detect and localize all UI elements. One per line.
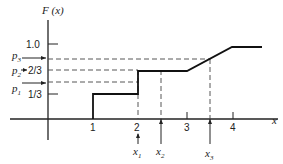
- svg-text:x1: x1: [132, 145, 141, 160]
- svg-text:p1: p1: [11, 82, 21, 97]
- ylabel-2-3: 2/3: [28, 65, 42, 76]
- y-axis-title: F (x): [41, 4, 64, 17]
- p3-annotation: p3: [11, 49, 46, 64]
- xlabel-3: 3: [184, 122, 190, 133]
- ylabel-1-3: 1/3: [28, 89, 42, 100]
- xlabel-1: 1: [90, 122, 96, 133]
- dashed-guides: [48, 59, 210, 119]
- svg-text:x3: x3: [204, 147, 214, 162]
- x1-annotation: x1: [132, 133, 141, 160]
- svg-text:x2: x2: [155, 145, 165, 160]
- x3-annotation: x3: [204, 119, 214, 162]
- svg-text:p2: p2: [11, 64, 22, 79]
- svg-text:p3: p3: [11, 49, 22, 64]
- cdf-chart: 1.0 2/3 1/3 F (x) x 1 2 3 4 p3 p2 p1 x1 …: [0, 0, 283, 164]
- p2-annotation: p2: [11, 64, 27, 79]
- x-axis-title: x: [271, 114, 277, 126]
- cdf-curve: [93, 47, 262, 119]
- ylabel-1-0: 1.0: [26, 39, 40, 50]
- xlabel-4: 4: [230, 122, 236, 133]
- xlabel-2: 2: [134, 122, 140, 133]
- x2-annotation: x2: [155, 119, 165, 160]
